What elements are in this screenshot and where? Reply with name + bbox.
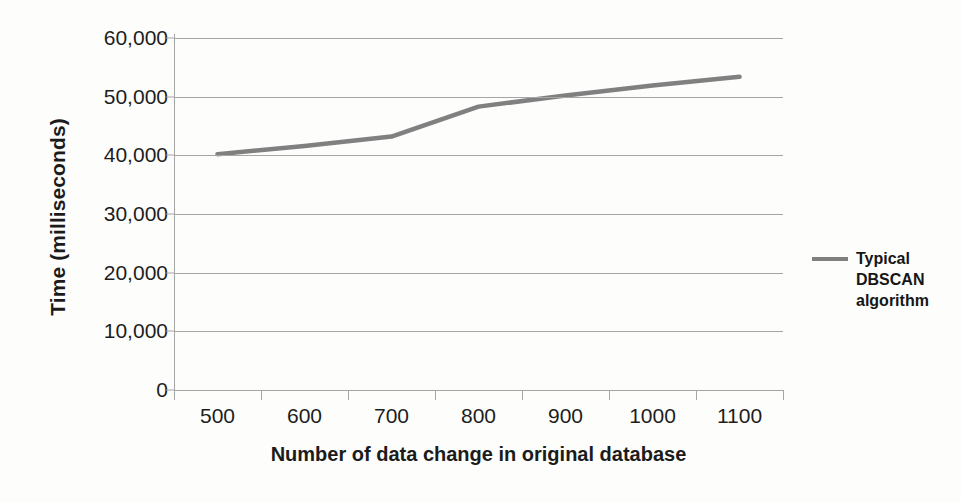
y-axis-tick	[166, 272, 175, 273]
line-chart: Time (milliseconds) 60,00050,00040,00030…	[0, 0, 961, 502]
legend-label-line-3: algorithm	[856, 290, 952, 311]
legend-swatch-typical-dbscan	[812, 257, 848, 261]
x-axis-tick-label: 600	[255, 404, 355, 428]
x-axis-tick	[174, 390, 175, 400]
x-axis-tick	[348, 390, 349, 400]
y-axis-tick-label: 0	[28, 378, 168, 402]
gridline	[174, 214, 783, 215]
y-axis-tick	[166, 214, 175, 215]
legend-label-line-1: Typical	[856, 248, 952, 269]
x-axis-tick-label: 900	[516, 404, 616, 428]
plot-area	[174, 38, 783, 390]
y-axis-tick-label: 50,000	[28, 85, 168, 109]
x-axis-tick-label: 500	[168, 404, 268, 428]
x-axis-tick	[435, 390, 436, 400]
gridline	[174, 155, 783, 156]
x-axis-tick-label: 800	[429, 404, 529, 428]
y-axis-tick-label: 60,000	[28, 26, 168, 50]
y-axis-tick-label: 30,000	[28, 202, 168, 226]
gridline	[174, 97, 783, 98]
y-axis-tick	[166, 331, 175, 332]
legend-label-typical-dbscan: Typical DBSCAN algorithm	[856, 248, 952, 311]
x-axis-tick-label: 1100	[690, 404, 790, 428]
y-axis-tick-label: 20,000	[28, 261, 168, 285]
gridline	[174, 390, 783, 391]
gridline	[174, 38, 783, 39]
y-axis-tick	[166, 96, 175, 97]
x-axis-title: Number of data change in original databa…	[174, 443, 783, 466]
x-axis-tick-label: 1000	[603, 404, 703, 428]
x-axis-tick	[522, 390, 523, 400]
y-axis-tick	[166, 155, 175, 156]
legend-label-line-2: DBSCAN	[856, 269, 952, 290]
y-axis-tick-label: 40,000	[28, 143, 168, 167]
gridline	[174, 273, 783, 274]
y-axis-tick-labels: 60,00050,00040,00030,00020,00010,0000	[28, 0, 168, 502]
x-axis-tick	[261, 390, 262, 400]
y-axis-tick-label: 10,000	[28, 319, 168, 343]
x-axis-tick	[696, 390, 697, 400]
x-axis-tick	[783, 390, 784, 400]
gridline	[174, 331, 783, 332]
x-axis-tick-label: 700	[342, 404, 442, 428]
x-axis-tick	[609, 390, 610, 400]
y-axis-tick	[166, 38, 175, 39]
legend: Typical DBSCAN algorithm	[812, 248, 952, 311]
